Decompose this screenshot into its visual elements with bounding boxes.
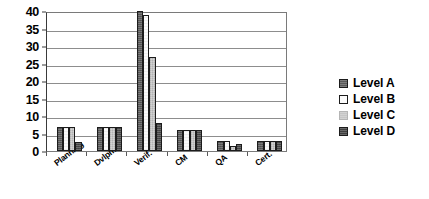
bar bbox=[109, 127, 115, 152]
bar bbox=[183, 130, 189, 151]
bar bbox=[236, 144, 242, 151]
x-axis-tick-mark bbox=[207, 152, 208, 156]
bar bbox=[217, 141, 223, 152]
legend-swatch-icon bbox=[339, 79, 348, 88]
bar bbox=[196, 130, 202, 151]
bar bbox=[224, 141, 230, 152]
bar bbox=[69, 127, 75, 152]
bar bbox=[149, 57, 155, 152]
x-axis-tick-label: QA bbox=[213, 152, 229, 167]
chart-legend: Level ALevel BLevel CLevel D bbox=[339, 77, 395, 137]
bar bbox=[137, 11, 143, 151]
legend-swatch-icon bbox=[339, 111, 348, 120]
legend-item-label: Level C bbox=[353, 109, 395, 121]
bar bbox=[177, 130, 183, 151]
x-axis-tick-label: Cert. bbox=[253, 149, 274, 168]
bar bbox=[230, 146, 236, 151]
bar bbox=[63, 127, 69, 152]
bar bbox=[143, 15, 149, 152]
legend-item: Level B bbox=[339, 93, 395, 105]
bar bbox=[264, 141, 270, 152]
bar bbox=[257, 141, 263, 152]
x-axis-tick-mark bbox=[126, 152, 127, 156]
legend-swatch-icon bbox=[339, 95, 348, 104]
x-axis-tick-mark bbox=[247, 152, 248, 156]
bar bbox=[75, 142, 81, 151]
bar bbox=[57, 127, 63, 152]
bar bbox=[190, 130, 196, 151]
x-axis-tick-mark bbox=[167, 152, 168, 156]
bar-chart: 0510152025303540 PlanningDvlpmtVerif.CMQ… bbox=[0, 0, 429, 199]
x-axis-tick-label: CM bbox=[173, 152, 189, 168]
legend-item-label: Level D bbox=[353, 125, 395, 137]
x-axis-tick-mark bbox=[46, 152, 47, 156]
legend-item-label: Level B bbox=[353, 93, 395, 105]
legend-item-label: Level A bbox=[353, 77, 395, 89]
legend-item: Level A bbox=[339, 77, 395, 89]
bar bbox=[270, 141, 276, 152]
bar bbox=[97, 127, 103, 152]
bar bbox=[156, 123, 162, 151]
x-axis-tick-mark bbox=[86, 152, 87, 156]
bar bbox=[276, 141, 282, 152]
bar bbox=[103, 127, 109, 152]
bar bbox=[116, 127, 122, 152]
legend-item: Level C bbox=[339, 109, 395, 121]
legend-item: Level D bbox=[339, 125, 395, 137]
legend-swatch-icon bbox=[339, 127, 348, 136]
